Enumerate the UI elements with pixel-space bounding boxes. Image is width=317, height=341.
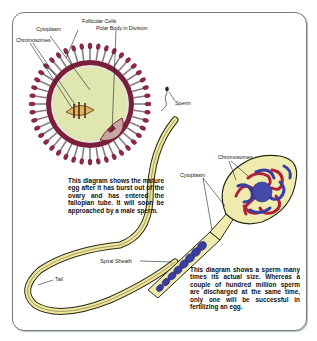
label-sperm-chromosomes: Chromosomes	[218, 154, 253, 160]
label-sperm: Sperm	[175, 100, 191, 106]
egg-caption: This diagram shows the mature egg after …	[68, 177, 164, 214]
small-sperm	[161, 86, 175, 111]
sperm-caption: This diagram shows a sperm many times it…	[190, 266, 300, 310]
label-spiral-sheath: Spiral Sheath	[100, 258, 132, 264]
label-tail: Tail	[55, 276, 63, 282]
label-sperm-cytoplasm: Cytoplasm	[180, 172, 205, 178]
label-polar-body: Polar Body in Division	[96, 25, 147, 31]
label-egg-cytoplasm: Cytoplasm	[36, 26, 61, 32]
sperm-head	[222, 155, 297, 223]
label-follicular-cells: Follicular Cells	[82, 18, 116, 24]
label-egg-chromosomes: Chromosomes	[16, 37, 51, 43]
egg-cell	[46, 60, 134, 148]
